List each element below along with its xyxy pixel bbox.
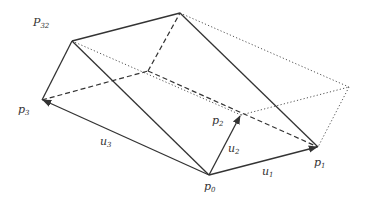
edge-topleft-p2 — [72, 41, 241, 115]
edge-hidden-top — [148, 13, 180, 71]
diagram-canvas: P32 p3 p2 p1 p0 u1 u2 u3 — [0, 0, 367, 199]
vector-u3-arrow — [43, 100, 209, 175]
label-u2: u2 — [228, 142, 240, 156]
label-p1: p1 — [314, 156, 326, 170]
label-p0: p0 — [204, 180, 216, 194]
edge-top-farright — [180, 13, 349, 87]
label-u3: u3 — [100, 135, 112, 149]
edge-p3-hidden — [42, 71, 148, 100]
dashed-edges — [42, 13, 318, 147]
edge-topleft-top — [72, 13, 180, 41]
edge-topleft-p0 — [72, 41, 209, 175]
edge-p2-farright — [241, 87, 349, 115]
solid-edges — [42, 13, 318, 175]
edge-p3-topleft — [42, 41, 72, 100]
labels: P32 p3 p2 p1 p0 u1 u2 u3 — [18, 16, 326, 194]
label-p3: p3 — [18, 103, 30, 117]
edge-hidden-p1 — [148, 71, 318, 147]
parallelepiped-diagram: P32 p3 p2 p1 p0 u1 u2 u3 — [0, 0, 367, 199]
edge-top-p1 — [180, 13, 318, 147]
label-u1: u1 — [262, 165, 274, 179]
label-p2: p2 — [212, 114, 224, 128]
label-p32: P32 — [32, 16, 50, 30]
edge-farright-p1 — [318, 87, 349, 147]
